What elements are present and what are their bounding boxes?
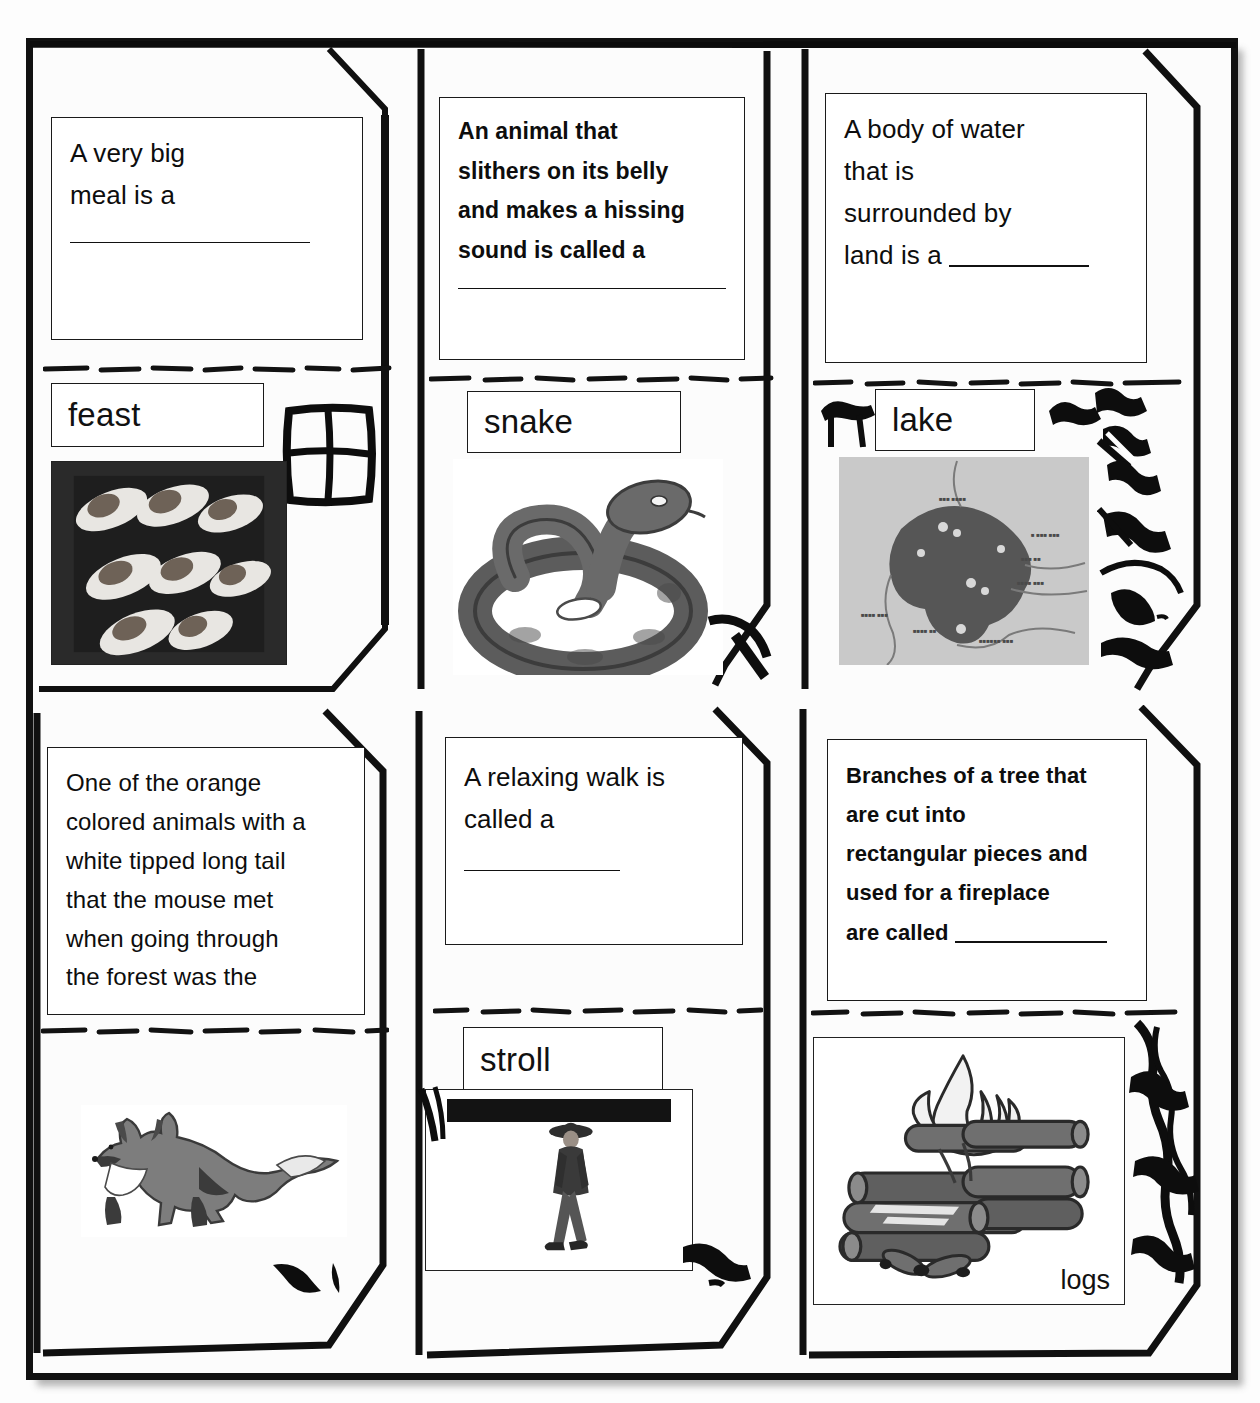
tree-scribble-doodle-logs xyxy=(1127,1017,1219,1317)
answer-blank-line[interactable] xyxy=(70,242,310,243)
svg-text:■■■ ■■: ■■■ ■■ xyxy=(1021,556,1041,562)
answer-word-snake: snake xyxy=(484,403,573,441)
edge-scribble-doodle-lake xyxy=(1097,453,1207,693)
figure-scribble-left xyxy=(815,393,877,449)
worksheet-cell-logs: Branches of a tree that are cut into rec… xyxy=(797,705,1217,1365)
question-line: the forest was the xyxy=(66,958,348,997)
question-box-snake: An animal that slithers on its belly and… xyxy=(439,97,745,360)
coiled-snake-illustration xyxy=(453,459,723,675)
picture-caption-logs: logs xyxy=(1060,1265,1110,1296)
fold-line-snake xyxy=(429,375,774,383)
man-walking-photo xyxy=(426,1090,692,1270)
question-text-snake: An animal that slithers on its belly and… xyxy=(458,112,728,289)
question-line-text: land is a xyxy=(844,240,942,270)
small-marks-doodle-fox xyxy=(269,1257,369,1317)
fold-line-fox xyxy=(41,1027,389,1035)
svg-text:■■■■ ■■: ■■■■ ■■ xyxy=(913,628,937,634)
question-line: rectangular pieces and xyxy=(846,834,1130,873)
question-line: that the mouse met xyxy=(66,881,348,920)
question-text-stroll: A relaxing walk is called a xyxy=(464,756,726,871)
question-line: when going through xyxy=(66,920,348,959)
worksheet-cell-stroll: A relaxing walk is called a stroll xyxy=(415,705,787,1365)
question-line: Branches of a tree that xyxy=(846,756,1130,795)
answer-blank-line[interactable] xyxy=(458,288,726,289)
fold-line-lake xyxy=(813,379,1183,387)
answer-box-snake: snake xyxy=(467,391,681,453)
question-line: called a xyxy=(464,798,726,840)
svg-text:■■■■ ■■■: ■■■■ ■■■ xyxy=(1017,580,1044,586)
answer-blank-inline[interactable] xyxy=(955,941,1107,943)
svg-text:■ ■■■ ■■■: ■ ■■■ ■■■ xyxy=(1031,532,1060,538)
worksheet-cell-lake: A body of water that is surrounded by la… xyxy=(797,45,1217,695)
worksheet-grid: A very big meal is a feast xyxy=(33,45,1231,1373)
question-line: used for a fireplace xyxy=(846,873,1130,912)
question-box-feast: A very big meal is a xyxy=(51,117,363,340)
answer-box-lake: lake xyxy=(875,389,1035,451)
picture-frame-logs: logs xyxy=(813,1037,1125,1305)
question-text-logs: Branches of a tree that are cut into rec… xyxy=(846,756,1130,952)
scanned-worksheet-page: A very big meal is a feast xyxy=(0,0,1260,1403)
window-sketch-doodle xyxy=(281,401,379,511)
answer-word-feast: feast xyxy=(68,396,141,434)
answer-word-stroll: stroll xyxy=(480,1041,551,1079)
answer-word-lake: lake xyxy=(892,401,953,439)
lake-map-image: ■■■ ■■■■ ■ ■■■ ■■■ ■■■ ■■ ■■■■ ■■■ ■■■■ … xyxy=(839,457,1089,665)
question-text-feast: A very big meal is a xyxy=(70,132,346,243)
question-line: An animal that xyxy=(458,112,728,152)
worksheet-cell-snake: An animal that slithers on its belly and… xyxy=(415,45,787,695)
question-line: surrounded by xyxy=(844,192,1130,234)
question-box-logs: Branches of a tree that are cut into rec… xyxy=(827,739,1147,1001)
picture-frame-stroll xyxy=(425,1089,693,1271)
fold-line-feast xyxy=(43,365,393,373)
question-line: sound is called a xyxy=(458,231,728,271)
corner-scribble-doodle-stroll xyxy=(679,1227,779,1307)
question-line: colored animals with a xyxy=(66,803,348,842)
worksheet-cell-fox: One of the orange colored animals with a… xyxy=(33,705,405,1365)
question-text-fox: One of the orange colored animals with a… xyxy=(66,764,348,997)
answer-box-feast: feast xyxy=(51,383,264,447)
svg-text:■■■■ ■■■: ■■■■ ■■■ xyxy=(861,612,888,618)
question-line: white tipped long tail xyxy=(66,842,348,881)
question-line: are cut into xyxy=(846,795,1130,834)
question-line: and makes a hissing xyxy=(458,191,728,231)
question-text-lake: A body of water that is surrounded by la… xyxy=(844,108,1130,276)
walking-fox-illustration xyxy=(81,1105,347,1237)
question-box-stroll: A relaxing walk is called a xyxy=(445,737,743,945)
picture-frame-fox xyxy=(81,1105,347,1237)
question-line: meal is a xyxy=(70,174,346,216)
question-box-lake: A body of water that is surrounded by la… xyxy=(825,93,1147,363)
picture-frame-snake xyxy=(453,459,723,675)
question-line-text: are called xyxy=(846,920,949,945)
question-line: are called xyxy=(846,913,1130,952)
question-line: A relaxing walk is xyxy=(464,756,726,798)
fold-line-stroll xyxy=(433,1007,763,1015)
fold-line-logs xyxy=(811,1009,1179,1017)
picture-frame-feast xyxy=(51,461,287,665)
question-line: A very big xyxy=(70,132,346,174)
question-line: that is xyxy=(844,150,1130,192)
svg-text:■■■ ■■■■: ■■■ ■■■■ xyxy=(939,496,966,502)
answer-box-stroll: stroll xyxy=(463,1027,663,1093)
appetizer-spoons-photo xyxy=(52,462,286,664)
answer-blank-inline[interactable] xyxy=(949,265,1089,267)
svg-text:■■■■■■ ■■■: ■■■■■■ ■■■ xyxy=(979,638,1014,644)
question-line: One of the orange xyxy=(66,764,348,803)
question-line: land is a xyxy=(844,234,1130,276)
worksheet-cell-feast: A very big meal is a feast xyxy=(33,45,405,695)
question-line: slithers on its belly xyxy=(458,152,728,192)
picture-frame-lake: ■■■ ■■■■ ■ ■■■ ■■■ ■■■ ■■ ■■■■ ■■■ ■■■■ … xyxy=(839,457,1089,665)
question-line: A body of water xyxy=(844,108,1130,150)
question-box-fox: One of the orange colored animals with a… xyxy=(47,747,365,1015)
answer-blank-line[interactable] xyxy=(464,870,620,871)
